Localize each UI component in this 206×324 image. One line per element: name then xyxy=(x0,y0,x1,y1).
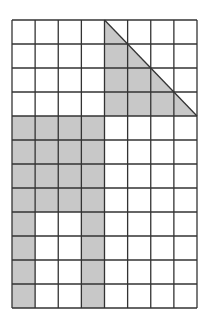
grid-figure xyxy=(0,0,206,324)
